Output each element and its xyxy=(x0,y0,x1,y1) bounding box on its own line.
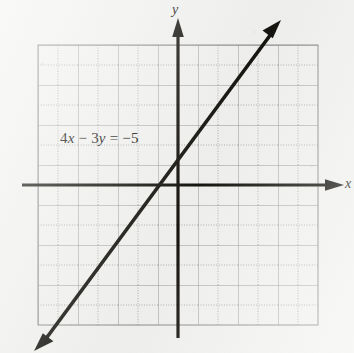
equation-right-hand-side: −5 xyxy=(122,130,138,146)
equation-label: 4x − 3y = −5 xyxy=(60,130,139,147)
equation-variable-x: x xyxy=(68,130,75,146)
equation-variable-y: y xyxy=(99,130,106,146)
graph-figure: 4x − 3y = −5 y x xyxy=(0,0,354,353)
equation-coefficient-x: 4 xyxy=(60,130,68,146)
coordinate-plane xyxy=(0,0,354,353)
y-axis-label: y xyxy=(172,2,178,18)
x-axis-label: x xyxy=(345,176,351,192)
equation-coefficient-y: 3 xyxy=(91,130,99,146)
equation-minus-sign: − xyxy=(79,130,88,146)
equation-equals-sign: = xyxy=(110,130,119,146)
